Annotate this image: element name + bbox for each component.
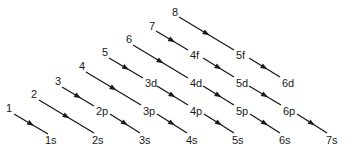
arrowhead-icon: [122, 64, 129, 70]
orbital-label: 2p: [96, 106, 108, 117]
diagonal-arrow: [179, 17, 234, 50]
diagonal-arrow: [203, 86, 234, 105]
arrowhead-icon: [109, 84, 116, 90]
shell-number-label: 8: [172, 7, 178, 18]
diagonal-arrow: [203, 58, 234, 77]
arrowhead-icon: [261, 119, 268, 125]
orbital-label: 3p: [143, 106, 155, 117]
orbital-label: 2s: [92, 135, 104, 146]
orbital-label: 7s: [326, 135, 338, 146]
diagonal-arrow: [249, 86, 281, 105]
arrowhead-icon: [74, 92, 81, 98]
aufbau-diagram: 123456781s2s3s4s5s6s7s2p3p4p5p6p3d4d5d6d…: [0, 0, 348, 156]
diagonal-arrow: [109, 58, 143, 78]
orbital-label: 5p: [236, 106, 248, 117]
diagonal-arrow: [156, 31, 188, 50]
orbital-label: 5d: [236, 78, 248, 89]
orbital-label: 6d: [282, 78, 294, 89]
arrowhead-icon: [215, 119, 222, 125]
diagonal-arrow: [249, 58, 280, 77]
shell-number-label: 4: [79, 61, 85, 72]
orbital-label: 4s: [186, 135, 198, 146]
shell-number-label: 1: [6, 103, 12, 114]
arrow-layer: [0, 0, 348, 156]
diagonal-arrow: [39, 100, 94, 133]
arrowhead-icon: [168, 36, 175, 42]
diagonal-arrow: [14, 114, 48, 134]
diagonal-arrow: [204, 114, 234, 133]
diagonal-arrow: [157, 114, 187, 133]
orbital-label: 4d: [190, 78, 202, 89]
orbital-label: 1s: [45, 135, 57, 146]
diagonal-arrow: [86, 72, 141, 105]
diagonal-arrow: [157, 86, 188, 105]
shell-number-label: 2: [31, 89, 37, 100]
shell-number-label: 5: [102, 47, 108, 58]
arrowhead-icon: [261, 91, 268, 97]
diagonal-arrow: [62, 87, 94, 106]
arrowhead-icon: [156, 57, 163, 63]
orbital-label: 5s: [232, 135, 244, 146]
arrowhead-icon: [168, 119, 175, 125]
arrowhead-icon: [202, 29, 209, 35]
diagonal-arrow: [297, 114, 327, 133]
orbital-label: 6p: [283, 106, 295, 117]
shell-number-label: 3: [55, 76, 61, 87]
diagonal-arrow: [110, 114, 140, 133]
arrowhead-icon: [260, 63, 267, 69]
arrowhead-icon: [121, 119, 128, 125]
arrowhead-icon: [308, 119, 315, 125]
arrowhead-icon: [168, 91, 175, 97]
arrowhead-icon: [62, 112, 69, 118]
orbital-label: 5f: [236, 50, 245, 61]
orbital-label: 4f: [190, 50, 199, 61]
shell-number-label: 6: [126, 34, 132, 45]
orbital-label: 3s: [139, 135, 151, 146]
shell-number-label: 7: [149, 21, 155, 32]
arrowhead-icon: [214, 63, 221, 69]
orbital-label: 4p: [190, 106, 202, 117]
orbital-label: 6s: [279, 135, 291, 146]
diagonal-arrow: [250, 114, 280, 133]
orbital-label: 3d: [145, 78, 157, 89]
arrowhead-icon: [214, 91, 221, 97]
diagonal-arrow: [133, 45, 188, 78]
arrowhead-icon: [27, 120, 34, 126]
